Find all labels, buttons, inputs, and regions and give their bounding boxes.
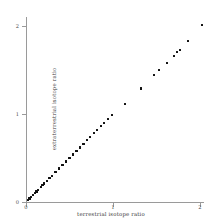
y-tick-2 (22, 26, 27, 27)
y-tick-label-2: 2 (5, 23, 19, 29)
data-point (48, 177, 50, 179)
data-point (46, 180, 48, 182)
data-point (111, 114, 113, 116)
data-point (65, 160, 67, 162)
x-axis-title: terrestrial isotope ratio (0, 211, 222, 217)
y-tick-label-1: 1 (5, 111, 19, 117)
x-tick-label-0: 0 (19, 204, 33, 210)
y-tick-label-0: 0 (5, 199, 19, 205)
scatter-plot-figure: 012012 terrestrial isotope ratio extrate… (0, 0, 222, 223)
data-point (32, 194, 34, 196)
x-tick-label-2: 2 (193, 204, 207, 210)
data-point (79, 146, 81, 148)
y-tick-1 (22, 114, 27, 115)
x-tick-label-1: 1 (106, 204, 120, 210)
y-axis-spine (26, 17, 27, 203)
data-point (58, 167, 60, 169)
data-point (173, 55, 175, 57)
data-point (166, 62, 168, 64)
data-point (140, 87, 142, 89)
data-point (82, 143, 84, 145)
data-point (75, 150, 77, 152)
data-point (187, 40, 189, 42)
